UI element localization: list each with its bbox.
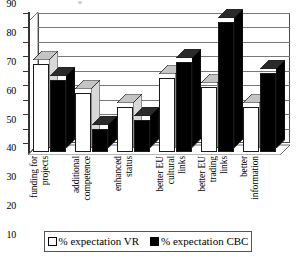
x-category-line: funding for — [29, 156, 40, 198]
bar-vr-3[interactable] — [159, 78, 175, 152]
x-category-line: better EU — [155, 156, 166, 192]
bar-group-0 — [29, 22, 71, 152]
bar-cbc-1[interactable] — [92, 129, 108, 152]
legend-swatch-filled-square-icon — [150, 237, 159, 246]
bar-cbc-2[interactable] — [134, 120, 150, 152]
x-category-line: competence — [82, 156, 93, 200]
y-tick-label-60: 60 — [6, 86, 16, 96]
y-tick-10: 10 — [23, 129, 28, 130]
y-tick-80: 80 — [23, 27, 28, 28]
bar-cbc-0[interactable] — [50, 80, 66, 152]
bar-cbc-4[interactable] — [218, 22, 234, 152]
bar-face — [218, 22, 234, 152]
x-category-line: information — [250, 156, 261, 200]
bar-face — [33, 64, 49, 152]
scan-artifact-speck — [78, 1, 82, 4]
y-tick-60: 60 — [23, 56, 28, 57]
x-category-line: trading — [208, 156, 219, 182]
y-tick-label-10: 10 — [6, 230, 16, 240]
bar-vr-4[interactable] — [201, 87, 217, 152]
x-category-label-1: additionalcompetence — [71, 156, 113, 228]
chart-figure: 0102030405060708090 funding forprojectsa… — [0, 0, 296, 258]
bar-side-face — [276, 60, 285, 152]
legend-item-cbc: % expectation CBC — [150, 236, 248, 247]
bar-vr-5[interactable] — [243, 107, 259, 152]
y-tick-30: 30 — [23, 100, 28, 101]
x-axis-category-labels: funding forprojectsadditionalcompetencee… — [29, 156, 281, 228]
x-category-label-2: enhancedstatus — [113, 156, 155, 228]
x-category-label-5: betterinformation — [239, 156, 281, 228]
bar-cbc-5[interactable] — [260, 73, 276, 152]
bar-face — [134, 120, 150, 152]
x-category-line: cultural — [166, 156, 177, 184]
chart-legend: % expectation VR % expectation CBC — [44, 231, 252, 252]
y-tick-label-30: 30 — [6, 172, 16, 182]
bar-top-face — [75, 75, 100, 93]
bar-face — [176, 62, 192, 152]
bar-cbc-3[interactable] — [176, 62, 192, 152]
x-category-label-0: funding forprojects — [29, 156, 71, 228]
bar-face — [159, 78, 175, 152]
legend-item-vr: % expectation VR — [48, 236, 139, 247]
y-tick-20: 20 — [23, 114, 28, 115]
gridline-90 — [38, 13, 290, 14]
bar-group-3 — [155, 22, 197, 152]
bar-group-4 — [197, 22, 239, 152]
y-tick-label-20: 20 — [6, 201, 16, 211]
y-tick-70: 70 — [23, 42, 28, 43]
legend-label-vr: % expectation VR — [59, 236, 139, 247]
bar-face — [243, 107, 259, 152]
x-category-line: projects — [40, 156, 51, 185]
x-category-line: status — [124, 156, 135, 177]
legend-swatch-open-square-icon — [48, 237, 57, 246]
y-tick-0: 0 — [23, 143, 28, 144]
bar-face — [75, 93, 91, 152]
bar-face — [201, 87, 217, 152]
bar-group-2 — [113, 22, 155, 152]
y-tick-50: 50 — [23, 71, 28, 72]
y-tick-label-90: 90 — [6, 0, 16, 9]
x-category-line: enhanced — [113, 156, 124, 191]
bar-top-face — [260, 55, 285, 73]
bar-top-face — [218, 4, 243, 22]
x-category-line: better EU — [197, 156, 208, 192]
plot-area: 0102030405060708090 — [29, 22, 281, 152]
bar-vr-1[interactable] — [75, 93, 91, 152]
y-tick-40: 40 — [23, 85, 28, 86]
y-tick-label-40: 40 — [6, 143, 16, 153]
bar-face — [50, 80, 66, 152]
x-category-label-3: better EUculturallinks — [155, 156, 197, 228]
y-tick-label-70: 70 — [6, 57, 16, 67]
bar-vr-0[interactable] — [33, 64, 49, 152]
bar-face — [260, 73, 276, 152]
y-tick-label-80: 80 — [6, 28, 16, 38]
x-category-line: additional — [71, 156, 82, 193]
y-tick-90: 90 — [23, 13, 28, 14]
x-category-line: better — [239, 156, 250, 177]
bar-group-5 — [239, 22, 281, 152]
x-category-label-4: better EUtradinglinks — [197, 156, 239, 228]
y-tick-label-50: 50 — [6, 115, 16, 125]
bar-face — [117, 107, 133, 152]
x-category-line: links — [177, 156, 188, 174]
x-category-line: links — [219, 156, 230, 174]
legend-label-cbc: % expectation CBC — [161, 236, 248, 247]
bar-vr-2[interactable] — [117, 107, 133, 152]
bar-face — [92, 129, 108, 152]
bar-group-1 — [71, 22, 113, 152]
